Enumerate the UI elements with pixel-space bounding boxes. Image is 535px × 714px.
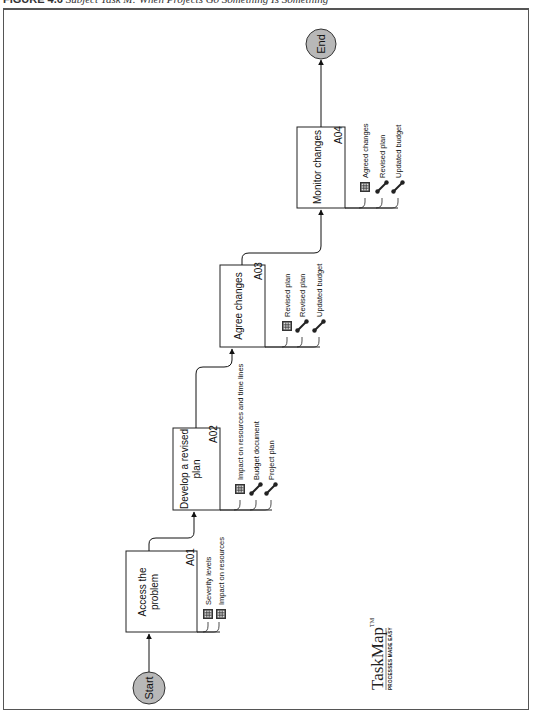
activity-a01-title-line1: Access the (137, 567, 148, 616)
activity-a02-title-line2: plan (191, 460, 202, 479)
activity-a04: Monitor changes A04 Agreed changes Revis… (297, 123, 405, 208)
activity-a03-title-line1: Agree changes (233, 272, 244, 339)
taskmap-logo: TaskMap TM PROCESSES MADE EASY (368, 617, 393, 690)
activity-a04-id: A04 (333, 126, 344, 144)
document-list-icon (235, 484, 245, 494)
document-list-icon (216, 609, 226, 619)
activity-a01-title-line2: problem (149, 574, 160, 610)
connector-a03-a04 (242, 210, 321, 265)
start-label: Start (143, 676, 155, 699)
wrench-icon (295, 319, 308, 332)
output-label: Impact on resources and time lines (236, 363, 245, 480)
activity-a02-id: A02 (208, 425, 219, 443)
document-list-icon (203, 609, 213, 619)
output-label: Severity levels (204, 556, 213, 605)
activity-a03: Agree changes A03 Revised plan Revised p… (220, 262, 326, 347)
output-label: Budget document (252, 420, 261, 480)
activity-a02-title-line1: Develop a revised (179, 429, 190, 509)
end-node: End (306, 29, 336, 59)
start-node: Start (133, 672, 165, 704)
output-label: Revised plan (283, 274, 292, 317)
activity-a01-id: A01 (185, 548, 196, 566)
logo-tagline: PROCESSES MADE EASY (388, 627, 393, 690)
wrench-icon (249, 482, 262, 495)
document-list-icon (282, 321, 292, 331)
activity-a03-id: A03 (253, 262, 264, 280)
wrench-icon (375, 180, 388, 193)
output-label: Updated budget (394, 124, 403, 178)
document-list-icon (360, 182, 370, 192)
connector-a02-a03 (196, 349, 232, 428)
wrench-icon (264, 482, 277, 495)
wrench-icon (312, 319, 325, 332)
logo-trademark: TM (369, 617, 375, 627)
activity-a01: Access the problem A01 Severity levels I… (126, 537, 226, 632)
output-label: Impact on resources (217, 537, 226, 605)
activity-a04-title-line1: Monitor changes (312, 130, 323, 204)
output-label: Revised plan (378, 135, 387, 178)
output-label: Project plan (267, 440, 276, 480)
process-diagram: Start Access the problem A01 Severity le… (0, 0, 535, 714)
end-label: End (315, 34, 327, 54)
output-label: Updated budget (315, 263, 324, 317)
activity-a02: Develop a revised plan A02 Impact on res… (173, 363, 278, 510)
output-label: Agreed changes (361, 123, 370, 178)
output-label: Revised plan (298, 274, 307, 317)
connector-a01-a02 (149, 512, 194, 551)
logo-name: TaskMap (368, 627, 387, 690)
wrench-icon (391, 180, 404, 193)
